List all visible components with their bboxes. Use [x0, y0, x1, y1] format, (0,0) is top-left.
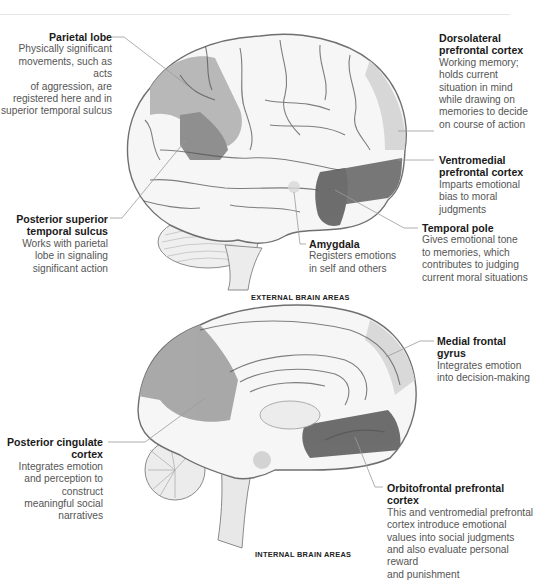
label-medial-frontal-gyrus: Medial frontal gyrus Integrates emotion …	[437, 335, 537, 385]
label-parietal-lobe: Parietal lobe Physically significant mov…	[0, 31, 112, 118]
label-orbitofrontal-prefrontal-cortex: Orbitofrontal prefrontal cortex This and…	[387, 482, 537, 581]
label-temporal-pole: Temporal pole Gives emotional tone to me…	[422, 222, 537, 284]
caption-external-brain-areas: EXTERNAL BRAIN AREAS	[251, 293, 350, 302]
label-posterior-cingulate-cortex: Posterior cingulate cortex Integrates em…	[0, 436, 103, 523]
label-posterior-superior-temporal-sulcus: Posterior superior temporal sulcus Works…	[0, 213, 108, 275]
label-title: Parietal lobe	[0, 31, 112, 43]
label-ventromedial-prefrontal-cortex: Ventromedial prefrontal cortex Imparts e…	[439, 154, 537, 216]
internal-brain	[132, 305, 416, 548]
label-amygdala: Amygdala Registers emotions in self and …	[309, 238, 404, 275]
caption-internal-brain-areas: INTERNAL BRAIN AREAS	[255, 550, 351, 559]
label-dorsolateral-prefrontal-cortex: Dorsolateral prefrontal cortex Working m…	[439, 32, 537, 131]
